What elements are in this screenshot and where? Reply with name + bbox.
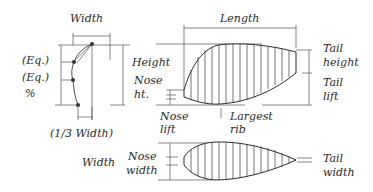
label-tail-width-2: width (323, 166, 354, 179)
label-width-bottom: Width (82, 156, 115, 169)
label-largest-rib-2: rib (230, 123, 246, 136)
label-tail-lift-2: lift (323, 90, 339, 103)
label-nose-ht-1: Nose (133, 74, 163, 87)
cross-section-view (55, 33, 130, 120)
label-nose-ht-2: ht. (134, 88, 149, 101)
label-tail-height-2: height (323, 56, 359, 69)
label-eq-2: (Eq.) (22, 71, 49, 84)
side-view (156, 25, 312, 118)
label-nose-width-1: Nose (127, 150, 157, 163)
label-largest-rib-1: Largest (229, 110, 273, 123)
label-tail-height-1: Tail (323, 42, 344, 55)
label-nose-lift-1: Nose (159, 110, 189, 123)
label-percent: % (25, 87, 35, 100)
label-tail-width-1: Tail (323, 152, 344, 165)
top-view (158, 142, 312, 180)
label-eq-1: (Eq.) (22, 54, 49, 67)
label-width-top: Width (70, 12, 103, 25)
airship-dimension-diagram: Width (Eq.) (Eq.) % (1/3 Width) (0, 0, 373, 192)
label-third-width: (1/3 Width) (50, 127, 113, 140)
label-nose-width-2: width (126, 164, 157, 177)
label-tail-lift-1: Tail (323, 76, 344, 89)
label-nose-lift-2: lift (160, 123, 176, 136)
label-height: Height (131, 56, 171, 69)
label-length: Length (219, 12, 259, 25)
